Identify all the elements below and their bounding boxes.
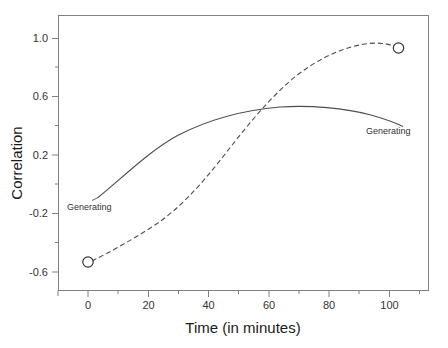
x-axis-tick-labels: 0 20 40 60 80 100: [85, 299, 399, 311]
y-tick-label: 0.6: [33, 90, 48, 102]
chart-figure: 1.0 0.6 0.2 -0.2 -0.6 0 20 40: [0, 0, 448, 348]
y-tick-label: -0.2: [29, 207, 48, 219]
x-tick-label: 100: [380, 299, 398, 311]
y-tick-label: 0.2: [33, 149, 48, 161]
end-marker-icon: [393, 43, 403, 53]
left-series-label: Generating: [67, 202, 112, 212]
series-solid-curve: [98, 106, 403, 197]
x-tick-label: 40: [202, 299, 214, 311]
y-tick-label: 1.0: [33, 32, 48, 44]
x-tick-label: 20: [142, 299, 154, 311]
correlation-line-chart: 1.0 0.6 0.2 -0.2 -0.6 0 20 40: [0, 0, 448, 348]
right-series-label: Generating: [366, 126, 411, 136]
x-axis-ticks: [58, 291, 420, 298]
y-tick-label: -0.6: [29, 266, 48, 278]
left-label-leader: [92, 198, 98, 201]
y-axis-tick-labels: 1.0 0.6 0.2 -0.2 -0.6: [29, 32, 48, 278]
x-tick-label: 80: [323, 299, 335, 311]
x-axis-title: Time (in minutes): [185, 319, 300, 336]
y-axis-ticks: [52, 39, 59, 273]
y-axis-title: Correlation: [8, 126, 25, 199]
x-tick-label: 60: [263, 299, 275, 311]
start-marker-icon: [83, 257, 93, 267]
series-dashed-curve: [92, 43, 393, 261]
x-tick-label: 0: [85, 299, 91, 311]
